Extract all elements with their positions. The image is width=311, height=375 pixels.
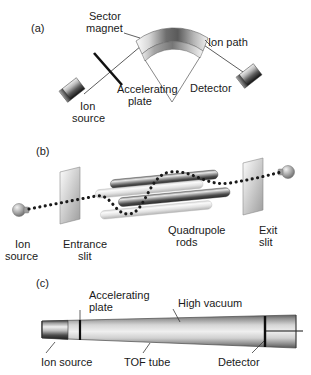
panel-b-label: (b)	[36, 145, 49, 157]
panel-a-canvas: (a)	[0, 0, 311, 125]
panel-b-quadrupole: (b)	[0, 125, 311, 265]
ion-source-cap	[42, 320, 68, 339]
label-detector: Detector	[190, 82, 232, 94]
mass-analyzer-figure: (a)	[0, 0, 311, 375]
panel-c-canvas: (c) Accelerating plate High vacuum	[0, 265, 311, 375]
label-sector-magnet-line2: magnet	[86, 22, 123, 34]
detector-block	[236, 64, 262, 89]
label-ion-path: Ion path	[208, 36, 248, 48]
label-quadrupole-rods-line2: rods	[176, 236, 198, 248]
panel-c-time-of-flight: (c) Accelerating plate High vacuum	[0, 265, 311, 375]
label-accelerating-plate-line1: Accelerating	[117, 83, 178, 95]
ion-source-leader	[46, 342, 55, 353]
label-c-accelerating-plate-line2: plate	[89, 301, 113, 313]
tof-tube-leader	[143, 343, 150, 353]
panel-a-magnetic-sector: (a)	[0, 0, 311, 125]
label-c-ion-source: Ion source	[41, 356, 92, 368]
panel-c-label: (c)	[36, 277, 49, 289]
panel-b-canvas: (b)	[0, 125, 311, 265]
entrance-slit-plate	[60, 167, 80, 224]
exit-detector-emitter	[278, 166, 295, 179]
sector-magnet-leader	[124, 33, 140, 38]
label-sector-magnet-line1: Sector	[89, 10, 121, 22]
label-tof-tube: TOF tube	[124, 356, 170, 368]
label-c-accelerating-plate-line1: Accelerating	[89, 289, 150, 301]
label-ion-source-line2: source	[72, 112, 105, 124]
label-exit-slit-line1: Exit	[259, 224, 277, 236]
label-b-ion-source-line2: source	[5, 250, 38, 262]
label-quadrupole-rods-line1: Quadrupole	[168, 224, 226, 236]
panel-a-label: (a)	[31, 22, 44, 34]
label-c-detector: Detector	[218, 356, 260, 368]
ion-source-block	[59, 78, 85, 103]
label-b-ion-source-line1: Ion	[15, 238, 30, 250]
label-entrance-slit-line2: slit	[78, 250, 91, 262]
field-boundary-right	[172, 57, 200, 102]
label-accelerating-plate-line2: plate	[128, 95, 152, 107]
ion-source-emitter	[13, 204, 30, 217]
label-entrance-slit-line1: Entrance	[63, 238, 107, 250]
exit-slit-plate	[243, 158, 263, 215]
label-ion-source-line1: Ion	[80, 100, 95, 112]
label-exit-slit-line2: slit	[259, 236, 272, 248]
label-high-vacuum: High vacuum	[178, 297, 242, 309]
accelerating-plate	[94, 53, 122, 85]
